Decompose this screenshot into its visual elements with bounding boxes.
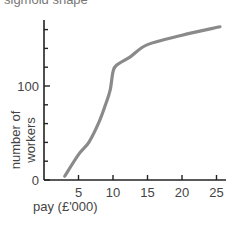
chart: 5101520250100 number of workers pay (£'0… <box>0 0 232 228</box>
y-tick-label: 100 <box>17 79 39 94</box>
axes <box>44 20 226 180</box>
ticks: 5101520250100 <box>17 30 223 200</box>
y-axis-label: number of <box>8 110 23 169</box>
x-tick-label: 20 <box>175 185 189 200</box>
x-tick-label: 25 <box>209 185 223 200</box>
x-tick-label: 10 <box>106 185 120 200</box>
data-line <box>65 27 220 176</box>
x-tick-label: 5 <box>75 185 82 200</box>
x-axis-label: pay (£'000) <box>33 199 98 214</box>
y-tick-label: 0 <box>32 173 39 188</box>
y-axis-label-line2: workers <box>23 117 38 164</box>
x-tick-label: 15 <box>140 185 154 200</box>
